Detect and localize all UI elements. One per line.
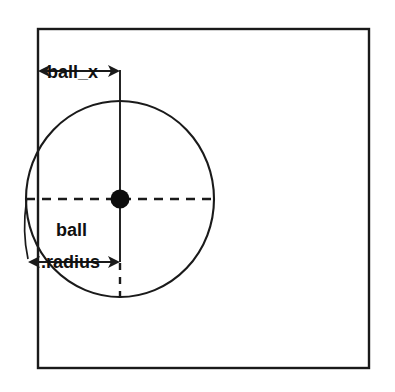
ball-center-dot <box>111 190 130 209</box>
ball-radius-label-line2: .radius <box>41 252 100 272</box>
ball-x-label: ball_x <box>47 62 98 82</box>
ball-position-diagram: ball_x ball .radius <box>0 0 395 392</box>
diagram-canvas: ball_x ball .radius <box>0 0 395 392</box>
diagram-background <box>0 0 395 392</box>
ball-radius-label-line1: ball <box>56 220 87 240</box>
